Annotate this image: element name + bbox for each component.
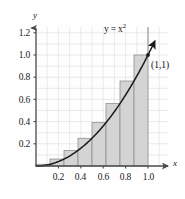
x-tick-label-0-6: 0.6 [92, 172, 115, 182]
riemann-bar [134, 55, 148, 166]
curve-equation-equals: = [109, 24, 118, 34]
y-tick-label-0-2: 0.2 [2, 139, 30, 149]
x-tick-label-0-4: 0.4 [69, 172, 92, 182]
riemann-bar [92, 123, 106, 166]
x-tick-label-0-2: 0.2 [47, 172, 70, 182]
x-axis-label: x [173, 158, 177, 168]
curve-equation-exponent: 2 [123, 22, 126, 29]
riemann-bar [78, 138, 92, 166]
riemann-sum-figure: 0.2 0.4 0.6 0.8 1.0 1.2 0.2 0.4 0.6 0.8 … [0, 0, 185, 199]
y-tick-label-1-2: 1.2 [2, 28, 30, 38]
x-tick-label-1-0: 1.0 [137, 172, 160, 182]
y-tick-label-0-4: 0.4 [2, 117, 30, 127]
point-marker-1-1 [146, 53, 150, 57]
curve-equation-label: y=x2 [104, 22, 126, 34]
y-tick-label-1-0: 1.0 [2, 50, 30, 60]
y-tick-label-0-6: 0.6 [2, 95, 30, 105]
y-tick-label-0-8: 0.8 [2, 72, 30, 82]
point-label-1-1: (1,1) [151, 60, 169, 70]
y-axis-label: y [33, 10, 37, 20]
x-tick-label-0-8: 0.8 [114, 172, 137, 182]
